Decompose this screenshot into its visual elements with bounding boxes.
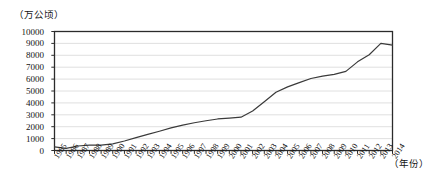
- x-axis-unit-label: （年份）: [389, 156, 427, 170]
- line-chart: （万公顷） 1000090008000700060005000400030002…: [0, 0, 427, 190]
- plot-area: [0, 0, 427, 190]
- gridlines: [55, 43, 393, 138]
- data-line: [55, 43, 393, 148]
